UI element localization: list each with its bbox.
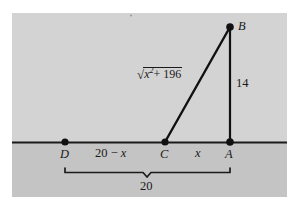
length-label-hypotenuse: √x2+ 196 (136, 67, 182, 80)
radical-expression: √x2+ 196 (136, 67, 182, 80)
point-B (226, 23, 234, 31)
figure-canvas (0, 0, 300, 208)
point-A (226, 138, 234, 146)
point-label-A: A (225, 148, 233, 161)
length-label-vertical-side: 14 (236, 77, 249, 90)
radicand: x2+ 196 (143, 67, 182, 80)
radical-sign-icon: √ (137, 67, 144, 82)
length-label-right-span: x (195, 147, 201, 160)
left-span-variable: x (121, 146, 127, 160)
length-label-total-span: 20 (140, 180, 153, 193)
scan-speck (130, 14, 132, 16)
left-span-numeric: 20 − (95, 146, 121, 160)
point-D (61, 138, 68, 145)
point-C (161, 138, 168, 145)
point-label-C: C (160, 148, 168, 161)
point-label-B: B (238, 20, 246, 33)
point-label-D: D (60, 148, 69, 161)
geometry-figure: B A C D 14 √x2+ 196 20 − x x 20 (0, 0, 300, 208)
radicand-rest: + 196 (153, 67, 181, 81)
length-label-left-span: 20 − x (95, 147, 126, 160)
